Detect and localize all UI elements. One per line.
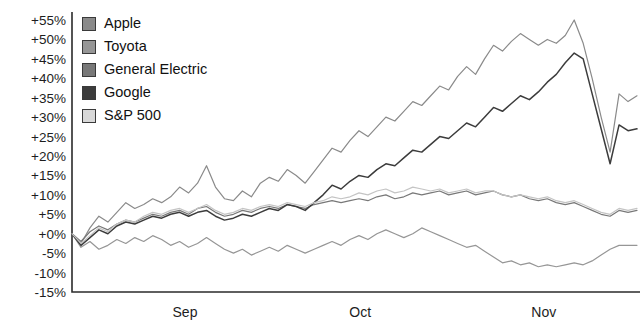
stock-comparison-chart: +55%+50%+45%+40%+35%+30%+25%+20%+15%+10%… (0, 0, 640, 330)
y-axis-tick-label: +30% (31, 110, 66, 125)
y-axis-tick-label: +35% (31, 91, 66, 106)
chart-legend: AppleToyotaGeneral ElectricGoogleS&P 500 (82, 12, 207, 127)
y-axis-tick-label: +40% (31, 71, 66, 86)
legend-swatch-icon (82, 63, 96, 77)
legend-item-s-p-500[interactable]: S&P 500 (82, 104, 207, 127)
legend-item-general-electric[interactable]: General Electric (82, 58, 207, 81)
legend-item-label: Apple (104, 16, 141, 31)
legend-swatch-icon (82, 40, 96, 54)
legend-item-toyota[interactable]: Toyota (82, 35, 207, 58)
x-axis-tick-label: Oct (349, 304, 371, 320)
y-axis-tick-label: -15% (34, 285, 66, 300)
y-axis-tick-label: -5% (42, 246, 66, 261)
x-axis-tick-labels: SepOctNov (173, 304, 557, 320)
legend-item-apple[interactable]: Apple (82, 12, 207, 35)
y-axis-tick-label: +55% (31, 13, 66, 28)
legend-swatch-icon (82, 86, 96, 100)
y-axis-tick-label: +10% (31, 188, 66, 203)
legend-swatch-icon (82, 109, 96, 123)
y-axis-tick-label: +45% (31, 52, 66, 67)
y-axis-tick-label: +25% (31, 130, 66, 145)
legend-item-google[interactable]: Google (82, 81, 207, 104)
legend-item-label: Google (104, 85, 151, 100)
x-axis-tick-label: Nov (531, 304, 556, 320)
y-axis-tick-label: +15% (31, 168, 66, 183)
y-axis-tick-label: -10% (34, 266, 66, 281)
y-axis-tick-labels: +55%+50%+45%+40%+35%+30%+25%+20%+15%+10%… (31, 13, 66, 300)
y-axis-tick-label: +50% (31, 32, 66, 47)
legend-item-label: General Electric (104, 62, 207, 77)
legend-item-label: S&P 500 (104, 108, 161, 123)
series-line-toyota (72, 228, 637, 267)
y-axis-tick-label: +0% (39, 227, 66, 242)
x-axis-tick-label: Sep (173, 304, 198, 320)
legend-swatch-icon (82, 17, 96, 31)
y-axis-tick-label: +5% (39, 207, 66, 222)
y-axis-tick-label: +20% (31, 149, 66, 164)
legend-item-label: Toyota (104, 39, 147, 54)
